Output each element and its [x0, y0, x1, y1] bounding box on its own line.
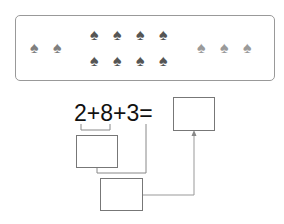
first-sum-box[interactable] — [76, 135, 118, 168]
result-box[interactable] — [173, 97, 215, 131]
second-sum-box[interactable] — [100, 178, 143, 211]
